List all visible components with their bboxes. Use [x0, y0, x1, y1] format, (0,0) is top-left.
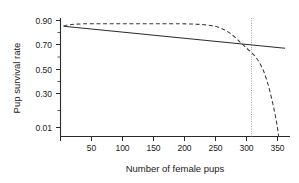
x-axis-title: Number of female pups: [126, 163, 225, 174]
y-tick-label: 0.90: [35, 16, 52, 26]
y-axis-ticks: [56, 21, 61, 128]
x-tick-label: 350: [270, 143, 284, 153]
x-tick-label: 250: [208, 143, 222, 153]
y-tick-label: 0.30: [35, 89, 52, 99]
x-tick-label: 50: [87, 143, 97, 153]
y-tick-label: 0.01: [35, 123, 52, 133]
x-axis-ticks: [61, 137, 278, 142]
x-tick-label: 200: [177, 143, 191, 153]
x-tick-label: 100: [115, 143, 129, 153]
x-tick-label: 300: [239, 143, 253, 153]
chart-figure: 0.90 0.70 0.50 0.30 0.01 50 100 150 200 …: [0, 0, 299, 183]
chart-canvas: 0.90 0.70 0.50 0.30 0.01 50 100 150 200 …: [0, 0, 299, 183]
x-tick-label: 150: [146, 143, 160, 153]
y-tick-label: 0.70: [35, 40, 52, 50]
y-axis-title: Pup survival rate: [11, 43, 22, 114]
series-line-dashed: [64, 24, 279, 136]
y-tick-label: 0.50: [35, 65, 52, 75]
